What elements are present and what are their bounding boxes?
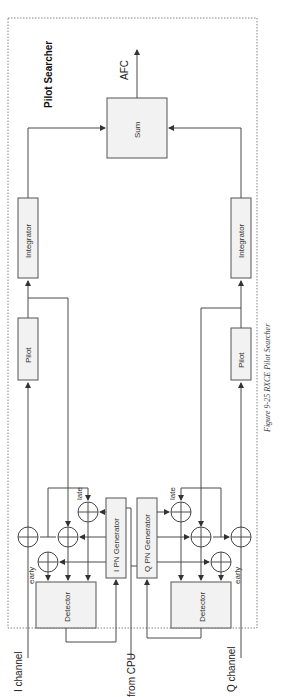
afc-label: AFC bbox=[119, 60, 130, 80]
q-correlator-mid bbox=[191, 527, 211, 547]
i-correlator-late bbox=[78, 502, 98, 522]
integrator-q-block: Integrator bbox=[231, 198, 251, 278]
svg-text:Q PN Generator: Q PN Generator bbox=[143, 514, 152, 572]
svg-text:Detector: Detector bbox=[63, 591, 72, 622]
early-q-label: early bbox=[233, 567, 242, 584]
q-correlator-late bbox=[171, 502, 191, 522]
svg-text:Integrator: Integrator bbox=[24, 223, 33, 258]
late-i-label: late bbox=[75, 487, 84, 500]
detector-i-block: Detector bbox=[36, 582, 96, 628]
sum-block: Sum bbox=[107, 98, 167, 158]
svg-text:Detector: Detector bbox=[198, 591, 207, 622]
pilot-searcher-diagram: Pilot Searcher Sum AFC Integrator Integr… bbox=[0, 0, 286, 697]
diagram-title: Pilot Searcher bbox=[43, 41, 54, 108]
late-q-label: late bbox=[168, 487, 177, 500]
detector-q-block: Detector bbox=[171, 582, 231, 628]
i-correlator-mid bbox=[58, 527, 78, 547]
pilot-i-block: Pilot bbox=[18, 318, 38, 380]
early-i-label: early bbox=[27, 567, 36, 584]
figure-caption: Figure 9-25 RXCE Pilot Searcher bbox=[263, 323, 272, 433]
q-correlator-main bbox=[231, 527, 251, 547]
integrator-i-block: Integrator bbox=[18, 198, 38, 278]
svg-text:Pilot: Pilot bbox=[237, 352, 246, 368]
svg-text:I PN Generator: I PN Generator bbox=[112, 518, 121, 572]
sum-label: Sum bbox=[133, 121, 142, 138]
q-correlator-early bbox=[211, 552, 231, 572]
from-cpu-label: from CPU bbox=[126, 653, 137, 697]
pilot-q-block: Pilot bbox=[231, 328, 251, 380]
i-correlator-early bbox=[38, 552, 58, 572]
q-channel-label: Q channel bbox=[226, 646, 237, 692]
svg-text:Pilot: Pilot bbox=[24, 347, 33, 363]
i-channel-label: I channel bbox=[13, 651, 24, 692]
q-pn-generator-block: Q PN Generator bbox=[137, 498, 157, 578]
i-correlator-main bbox=[18, 527, 38, 547]
i-pn-generator-block: I PN Generator bbox=[106, 498, 126, 578]
svg-text:Integrator: Integrator bbox=[237, 223, 246, 258]
